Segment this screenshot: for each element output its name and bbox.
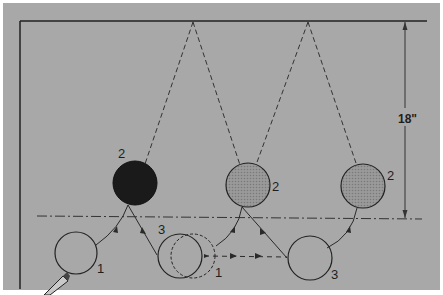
pencil-icon <box>44 272 70 295</box>
label-end-ball: 3 <box>331 267 338 282</box>
dimension-label: 18" <box>398 112 417 126</box>
label-ball-gray2: 2 <box>387 168 394 183</box>
label-middle-ball-3: 3 <box>158 222 165 237</box>
ball-black-position-2 <box>113 161 157 205</box>
arrow-right-icon <box>255 253 262 259</box>
pendulum-diagram: 18" 2 2 2 <box>0 0 443 295</box>
arrow-right-icon <box>230 253 237 259</box>
pendulum-strings <box>145 22 357 166</box>
arrow-up-icon <box>403 22 408 30</box>
label-middle-ball-1: 1 <box>215 265 222 280</box>
reference-dash-dot-line <box>37 216 422 219</box>
arrow-icon <box>230 226 235 233</box>
label-ball-gray1: 2 <box>272 179 279 194</box>
arrow-down-icon <box>403 210 408 218</box>
ball-end-position-3 <box>288 236 332 280</box>
height-dimension: 18" <box>398 22 417 218</box>
ball-start-position-1 <box>55 232 97 274</box>
trajectory-paths <box>96 205 357 258</box>
ball-gray-position-2 <box>226 163 270 207</box>
horizontal-dashed-path <box>204 253 287 259</box>
arrow-right-icon <box>204 254 209 258</box>
trajectory-arrows <box>113 226 351 235</box>
label-start-ball: 1 <box>97 261 104 276</box>
ball-gray-position-2-second <box>341 164 385 208</box>
ball-middle-position-3 <box>158 234 202 278</box>
label-ball-black: 2 <box>118 146 125 161</box>
arrow-icon <box>260 228 266 235</box>
